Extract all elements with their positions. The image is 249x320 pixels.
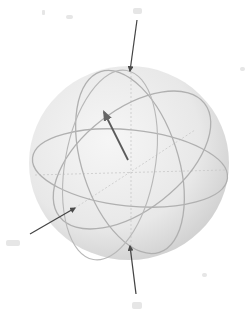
sphere bbox=[29, 66, 229, 260]
diagram-canvas bbox=[0, 0, 249, 320]
bloch-sphere-diagram bbox=[0, 0, 249, 320]
top-pointer-arrow bbox=[130, 20, 137, 71]
